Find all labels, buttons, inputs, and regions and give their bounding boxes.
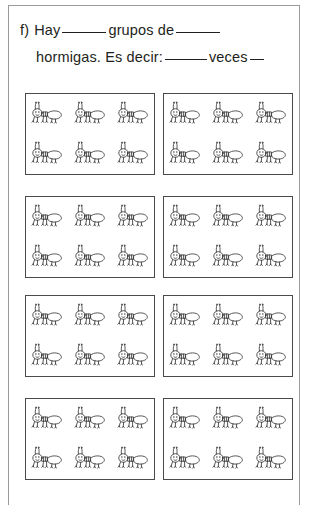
ant-icon (251, 100, 291, 128)
ant-icon (251, 405, 291, 433)
ant-icon (113, 140, 153, 168)
ant-icon (70, 445, 110, 473)
ant-row (26, 439, 154, 479)
ant-group-box (25, 295, 155, 377)
ant-icon (70, 203, 110, 231)
ant-icon (165, 405, 205, 433)
ant-icon (251, 342, 291, 370)
ant-icon (165, 203, 205, 231)
ant-group-box (163, 196, 293, 278)
ant-icon (113, 405, 153, 433)
ant-group-box (163, 93, 293, 175)
ant-row (164, 439, 292, 479)
ant-icon (70, 342, 110, 370)
ant-row (164, 94, 292, 134)
ant-icon (70, 302, 110, 330)
ant-icon (165, 302, 205, 330)
ant-icon (113, 203, 153, 231)
ant-icon (208, 405, 248, 433)
ant-row (164, 237, 292, 277)
ant-icon (27, 302, 67, 330)
ant-icon (165, 342, 205, 370)
ant-group-box (25, 398, 155, 480)
ant-icon (251, 243, 291, 271)
ant-icon (27, 140, 67, 168)
ant-icon (27, 445, 67, 473)
ant-icon (208, 100, 248, 128)
ant-icon (208, 140, 248, 168)
ant-row (164, 134, 292, 174)
ant-icon (113, 445, 153, 473)
ant-row (164, 336, 292, 376)
ant-group-box (163, 398, 293, 480)
ant-row (26, 134, 154, 174)
ant-row (26, 197, 154, 237)
ant-icon (70, 405, 110, 433)
ant-icon (27, 342, 67, 370)
ant-icon (113, 100, 153, 128)
ant-icon (251, 203, 291, 231)
ant-icon (27, 100, 67, 128)
ant-icon (208, 243, 248, 271)
ant-icon (70, 100, 110, 128)
ant-icon (113, 302, 153, 330)
ant-group-box (25, 196, 155, 278)
ant-icon (165, 243, 205, 271)
ant-row (26, 296, 154, 336)
ant-row (26, 336, 154, 376)
ant-icon (27, 243, 67, 271)
ant-icon (251, 140, 291, 168)
ant-icon (70, 243, 110, 271)
ant-icon (208, 302, 248, 330)
ant-group-box (163, 295, 293, 377)
ant-icon (70, 140, 110, 168)
ant-row (26, 94, 154, 134)
ant-icon (208, 445, 248, 473)
ant-icon (165, 445, 205, 473)
ant-row (164, 399, 292, 439)
ant-icon (165, 140, 205, 168)
ant-row (26, 237, 154, 277)
ant-icon (165, 100, 205, 128)
ant-icon (208, 203, 248, 231)
ant-icon (27, 203, 67, 231)
ant-icon (27, 405, 67, 433)
ant-icon (251, 302, 291, 330)
ant-icon (113, 243, 153, 271)
ant-row (164, 197, 292, 237)
ant-icon (208, 342, 248, 370)
ant-row (26, 399, 154, 439)
ant-row (164, 296, 292, 336)
ant-group-box (25, 93, 155, 175)
ant-icon (113, 342, 153, 370)
ant-icon (251, 445, 291, 473)
